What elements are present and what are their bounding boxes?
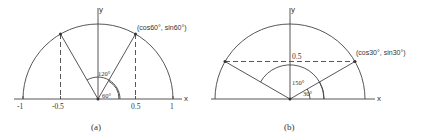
y-axis-label-b: y bbox=[291, 5, 295, 14]
x-axis-label-b: x bbox=[377, 94, 381, 103]
tick-label-neg1: -1 bbox=[17, 102, 23, 111]
radius-120-a bbox=[61, 34, 99, 99]
point-label-a: (cos60°, sin60°) bbox=[137, 24, 187, 32]
origin-a bbox=[97, 98, 100, 101]
caption-a: (a) bbox=[91, 122, 101, 132]
point-150-b bbox=[224, 60, 227, 63]
x-axis-label-a: x bbox=[184, 94, 188, 103]
angle-label-120: 120° bbox=[98, 70, 111, 77]
tick-label-05: 0.5 bbox=[131, 102, 141, 111]
angle-label-150: 150° bbox=[292, 79, 305, 86]
caption-b: (b) bbox=[284, 122, 295, 132]
point-60-a bbox=[134, 33, 137, 36]
angle-arc-30-outer bbox=[320, 82, 325, 99]
tick-label-1: 1 bbox=[170, 102, 174, 111]
origin-b bbox=[289, 98, 292, 101]
y-axis-label-a: y bbox=[99, 5, 103, 14]
angle-label-60: 60° bbox=[102, 92, 112, 99]
tick-label-neg05: -0.5 bbox=[52, 102, 64, 111]
figure-a bbox=[14, 8, 182, 99]
tick-label-05-b: 0.5 bbox=[292, 52, 302, 61]
angle-label-30: 30° bbox=[303, 90, 313, 97]
point-label-b: (cos30°, sin30°) bbox=[356, 49, 406, 57]
point-30-b bbox=[354, 60, 357, 63]
radius-150-b bbox=[225, 62, 290, 100]
point-120-a bbox=[59, 33, 62, 36]
